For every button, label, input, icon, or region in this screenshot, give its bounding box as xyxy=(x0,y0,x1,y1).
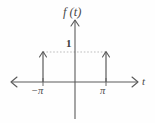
function-axis-label: f (t) xyxy=(63,6,81,19)
t-axis-label: t xyxy=(142,76,145,87)
impulse-train-figure: f (t) 1 −π π t xyxy=(0,0,155,123)
tick-label-pi: π xyxy=(100,86,105,97)
amplitude-value-label: 1 xyxy=(66,38,72,49)
tick-label-negative-pi: −π xyxy=(31,86,43,97)
